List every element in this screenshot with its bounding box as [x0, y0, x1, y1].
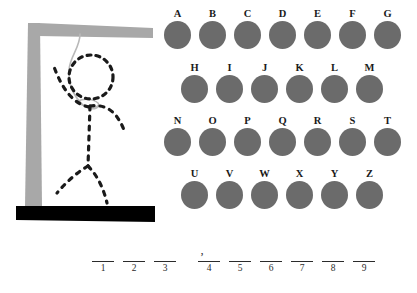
letter-disc[interactable]	[374, 128, 401, 156]
letter-label: C	[244, 8, 252, 20]
letter-disc[interactable]	[164, 128, 191, 156]
letter-button-m[interactable]: M	[352, 62, 387, 115]
letter-button-b[interactable]: B	[195, 8, 230, 61]
letter-disc[interactable]	[164, 21, 191, 49]
letter-label: K	[295, 62, 303, 74]
answer-slot[interactable]: 5	[227, 248, 253, 282]
letter-label: Z	[366, 168, 373, 180]
answer-rule	[291, 261, 313, 262]
gallows-base-icon	[16, 206, 155, 222]
letter-disc[interactable]	[321, 181, 348, 209]
letter-disc[interactable]	[199, 21, 226, 49]
letter-button-l[interactable]: L	[317, 62, 352, 115]
letter-disc[interactable]	[269, 128, 296, 156]
letter-button-s[interactable]: S	[335, 115, 370, 168]
letter-button-n[interactable]: N	[160, 115, 195, 168]
letter-button-g[interactable]: G	[370, 8, 405, 61]
letter-button-z[interactable]: Z	[352, 168, 387, 221]
alphabet-row: U V W X Y Z	[177, 168, 387, 221]
letter-button-e[interactable]: E	[300, 8, 335, 61]
letter-disc[interactable]	[286, 75, 313, 103]
letter-button-o[interactable]: O	[195, 115, 230, 168]
letter-label: R	[314, 115, 322, 127]
answer-slot[interactable]: 7	[289, 248, 315, 282]
answer-rule	[353, 261, 375, 262]
letter-button-u[interactable]: U	[177, 168, 212, 221]
letter-disc[interactable]	[216, 181, 243, 209]
letter-button-d[interactable]: D	[265, 8, 300, 61]
answer-index: 2	[132, 263, 137, 274]
figure-body-icon	[88, 106, 90, 166]
letter-button-c[interactable]: C	[230, 8, 265, 61]
answer-index: 8	[331, 263, 336, 274]
letter-disc[interactable]	[321, 75, 348, 103]
alphabet-row: A B C D E F G	[160, 8, 405, 61]
letter-disc[interactable]	[286, 181, 313, 209]
letter-label: U	[191, 168, 199, 180]
letter-disc[interactable]	[199, 128, 226, 156]
letter-label: M	[365, 62, 375, 74]
letter-disc[interactable]	[304, 21, 331, 49]
letter-disc[interactable]	[356, 75, 383, 103]
answer-blanks-area: 1 2 3 ’ 4 5	[0, 248, 417, 284]
letter-disc[interactable]	[181, 181, 208, 209]
letter-label: J	[262, 62, 267, 74]
letter-button-w[interactable]: W	[247, 168, 282, 221]
letter-label: N	[174, 115, 182, 127]
letter-disc[interactable]	[339, 128, 366, 156]
letter-button-v[interactable]: V	[212, 168, 247, 221]
letter-button-a[interactable]: A	[160, 8, 195, 61]
answer-slot[interactable]: 1	[90, 248, 116, 282]
letter-label: E	[314, 8, 321, 20]
letter-disc[interactable]	[234, 128, 261, 156]
answer-slot[interactable]: 3	[152, 248, 178, 282]
letter-label: S	[350, 115, 356, 127]
answer-slot[interactable]: 2	[121, 248, 147, 282]
letter-button-j[interactable]: J	[247, 62, 282, 115]
letter-label: T	[384, 115, 391, 127]
letter-button-q[interactable]: Q	[265, 115, 300, 168]
figure-left-leg-icon	[57, 166, 88, 193]
letter-button-i[interactable]: I	[212, 62, 247, 115]
letter-label: L	[331, 62, 338, 74]
letter-disc[interactable]	[339, 21, 366, 49]
answer-index: 6	[269, 263, 274, 274]
letter-disc[interactable]	[181, 75, 208, 103]
letter-button-h[interactable]: H	[177, 62, 212, 115]
letter-button-y[interactable]: Y	[317, 168, 352, 221]
letter-label: Q	[278, 115, 286, 127]
answer-word-group: 4 5 6 7 8	[196, 248, 382, 284]
gallows-illustration	[0, 0, 160, 230]
letter-disc[interactable]	[269, 21, 296, 49]
letter-disc[interactable]	[216, 75, 243, 103]
letter-button-f[interactable]: F	[335, 8, 370, 61]
answer-rule	[123, 261, 145, 262]
letter-button-k[interactable]: K	[282, 62, 317, 115]
answer-index: 1	[101, 263, 106, 274]
answer-slot[interactable]: 4	[196, 248, 222, 282]
alphabet-grid: A B C D E F G	[160, 8, 412, 220]
letter-label: F	[349, 8, 355, 20]
letter-disc[interactable]	[374, 21, 401, 49]
letter-label: H	[190, 62, 198, 74]
letter-button-t[interactable]: T	[370, 115, 405, 168]
gallows-post-icon	[25, 23, 42, 206]
letter-button-p[interactable]: P	[230, 115, 265, 168]
letter-disc[interactable]	[251, 75, 278, 103]
letter-disc[interactable]	[356, 181, 383, 209]
letter-label: I	[227, 62, 231, 74]
answer-index: 7	[300, 263, 305, 274]
answer-slot[interactable]: 8	[320, 248, 346, 282]
answer-slot[interactable]: 6	[258, 248, 284, 282]
letter-disc[interactable]	[234, 21, 261, 49]
letter-label: A	[174, 8, 182, 20]
letter-disc[interactable]	[304, 128, 331, 156]
letter-label: V	[226, 168, 234, 180]
letter-label: D	[279, 8, 287, 20]
answer-slot[interactable]: 9	[351, 248, 377, 282]
letter-disc[interactable]	[251, 181, 278, 209]
answer-rule	[154, 261, 176, 262]
gallows-beam-icon	[38, 23, 153, 38]
letter-button-x[interactable]: X	[282, 168, 317, 221]
letter-button-r[interactable]: R	[300, 115, 335, 168]
